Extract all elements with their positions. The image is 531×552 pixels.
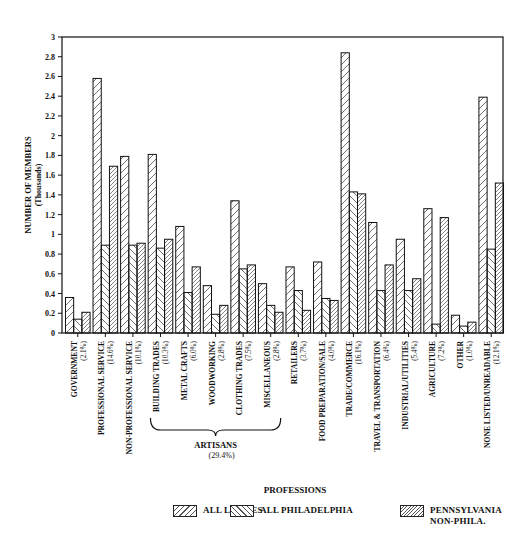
bar [220,305,228,333]
svg-text:AGRICULTURE: AGRICULTURE [428,341,437,397]
bar [211,314,219,333]
y-tick-label: 1.4 [45,191,55,200]
bar [349,192,357,333]
legend-item-pennsylvania-non-phila: PENNSYLVANIA NON-PHILA. [400,505,502,527]
bar [203,286,211,333]
bar [165,239,173,333]
svg-text:CLOTHING TRADES: CLOTHING TRADES [235,341,244,415]
bar [137,243,145,333]
chart-bars [65,53,503,333]
bar [495,183,503,333]
svg-text:(7.2%): (7.2%) [438,340,446,360]
bar [468,322,476,333]
bar [341,53,349,333]
x-tick-label: GOVERNMENT(2.1%) [70,340,88,397]
bar [377,291,385,333]
y-tick-label: 0.2 [45,309,55,318]
forward-hatch-swatch-icon [173,505,197,517]
svg-text:PROFESSIONAL SERVICE: PROFESSIONAL SERVICE [97,341,106,435]
svg-text:OTHER: OTHER [456,340,465,368]
bar [156,248,164,333]
svg-text:GOVERNMENT: GOVERNMENT [70,341,79,397]
back-hatch-swatch-icon [230,505,254,517]
bar [385,265,393,333]
bar [322,298,330,333]
y-tick-label: 1.2 [45,211,55,220]
bar [424,209,432,333]
bar [65,297,73,333]
bar [184,293,192,333]
svg-text:(10.1%): (10.1%) [135,340,143,364]
svg-text:TRADE/COMMERCE: TRADE/COMMERCE [345,341,354,417]
svg-text:(16.1%): (16.1%) [355,340,363,364]
svg-text:(10.3%): (10.3%) [162,340,170,364]
svg-text:(5.4%): (5.4%) [411,340,419,360]
bar [451,315,459,333]
bar [129,245,137,333]
bar [239,269,247,333]
svg-text:(3.7%): (3.7%) [300,340,308,360]
y-tick-label: 0.4 [45,290,55,299]
bar [82,312,90,333]
bar [74,319,82,333]
bar [148,154,156,333]
x-tick-label: OTHER(1.0%) [456,340,474,368]
svg-text:(4.0%): (4.0%) [328,340,336,360]
svg-text:METAL CRAFTS: METAL CRAFTS [180,341,189,400]
x-tick-label: NONE LISTED/UNREADABLE(12.1%) [483,340,501,448]
svg-text:(12.1%): (12.1%) [493,340,501,364]
svg-text:WOODWORKING: WOODWORKING [208,341,217,405]
svg-text:TRAVEL & TRANSPORTATION: TRAVEL & TRANSPORTATION [373,340,382,451]
bar [432,324,440,333]
bar [286,267,294,333]
bar [404,291,412,333]
x-tick-label: FOOD PREPARATION/SALE(4.0%) [318,340,336,441]
svg-text:(6.0%): (6.0%) [190,340,198,360]
bar [487,249,495,333]
artisans-brace: ARTISANS(29.4%) [150,418,280,460]
svg-text:(1.0%): (1.0%) [466,340,474,360]
y-tick-label: 0.6 [45,270,55,279]
bar [247,265,255,333]
svg-text:(6.4%): (6.4%) [383,340,391,360]
x-axis-labels: GOVERNMENT(2.1%)PROFESSIONAL SERVICE(14.… [70,340,501,454]
artisans-pct: (29.4%) [209,451,235,460]
y-tick-label: 2.8 [45,53,55,62]
bar [176,226,184,333]
svg-text:(14.6%): (14.6%) [107,340,115,364]
bar [302,310,310,333]
svg-text:(2.1%): (2.1%) [80,340,88,360]
x-tick-label: BUILDING TRADES(10.3%) [152,340,170,412]
bar [258,284,266,333]
svg-text:FOOD PREPARATION/SALE: FOOD PREPARATION/SALE [318,341,327,441]
y-axis-subtitle: (Thousands) [34,163,43,206]
svg-text:BUILDING TRADES: BUILDING TRADES [152,341,161,412]
x-tick-label: CLOTHING TRADES(7.5%) [235,340,253,415]
y-tick-label: 2 [51,132,55,141]
y-tick-label: 1.8 [45,151,55,160]
y-axis-title: NUMBER OF MEMBERS [23,136,33,234]
svg-text:(2.8%): (2.8%) [218,340,226,360]
legend-label: ALL PHILADELPHIA [260,505,353,516]
x-tick-label: MISCELLANEOUS(2.8%) [263,340,281,407]
bar [267,305,275,333]
x-tick-label: TRAVEL & TRANSPORTATION(6.4%) [373,340,391,451]
x-axis-title: PROFESSIONS [264,485,327,495]
bar [369,222,377,333]
bar [330,300,338,333]
bar [314,262,322,333]
y-tick-label: 2.6 [45,72,55,81]
x-tick-label: METAL CRAFTS(6.0%) [180,340,198,400]
bar [479,97,487,333]
bar [294,291,302,333]
bar [121,156,129,333]
svg-text:RETAILERS: RETAILERS [290,341,299,384]
x-tick-label: NON-PROFESSIONAL SERVICE(10.1%) [125,340,143,454]
x-tick-label: RETAILERS(3.7%) [290,340,308,384]
x-tick-label: AGRICULTURE(7.2%) [428,340,446,397]
y-tick-label: 2.4 [45,92,55,101]
y-tick-label: 2.2 [45,112,55,121]
y-tick-label: 3 [51,33,55,42]
bar [101,245,109,333]
bar [109,166,117,333]
